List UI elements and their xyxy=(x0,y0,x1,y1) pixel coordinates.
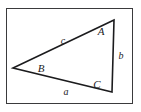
side-label-c: c xyxy=(61,35,66,46)
side-label-b: b xyxy=(119,50,124,61)
vertex-label-b: B xyxy=(38,62,45,74)
vertex-label-a: A xyxy=(97,25,105,37)
side-label-a: a xyxy=(64,86,69,97)
vertex-label-c: C xyxy=(93,78,101,90)
diagram-screenshot: A B C a b c xyxy=(0,0,141,112)
triangle-figure: A B C a b c xyxy=(0,0,141,112)
